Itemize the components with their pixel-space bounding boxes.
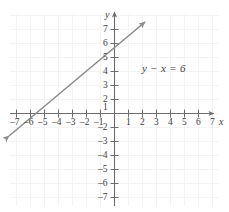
y-tick-label-neg5: –5: [98, 165, 108, 175]
y-tick-label-7: 7: [103, 25, 108, 35]
x-tick-label-neg5: –5: [38, 118, 48, 128]
y-axis-label: y: [105, 10, 109, 20]
y-tick-label-6: 6: [103, 39, 108, 49]
x-tick-label-4: 4: [168, 118, 173, 128]
equation-label: y − x = 6: [142, 62, 186, 74]
y-tick-label-3: 3: [103, 81, 108, 91]
y-tick-label-1: 1: [103, 103, 108, 113]
coordinate-plane: [0, 0, 229, 212]
x-tick-label-1: 1: [126, 118, 131, 128]
x-tick-label-neg4: –4: [52, 118, 62, 128]
y-tick-label-neg3: –3: [98, 137, 108, 147]
y-tick-label-5: 5: [103, 53, 108, 63]
x-tick-label-neg2: –2: [80, 118, 90, 128]
y-axis: [111, 12, 119, 206]
x-tick-label-2: 2: [140, 118, 145, 128]
x-tick-label-3: 3: [154, 118, 159, 128]
y-tick-label-neg4: –4: [98, 151, 108, 161]
x-tick-label-7: 7: [210, 118, 215, 128]
x-tick-label-neg3: –3: [66, 118, 76, 128]
y-tick-label-4: 4: [103, 67, 108, 77]
y-tick-label-neg6: –6: [98, 179, 108, 189]
x-tick-label-neg6: –6: [24, 118, 34, 128]
x-tick-label-neg7: –7: [10, 118, 20, 128]
graph-figure: –7 –6 –5 –4 –3 –2 –1 1 2 3 4 5 6 7 7 6 5…: [0, 0, 229, 212]
y-tick-label-neg2: –2: [98, 123, 108, 133]
y-tick-label-neg7: –7: [98, 193, 108, 203]
x-tick-label-5: 5: [182, 118, 187, 128]
x-axis-label: x: [219, 117, 223, 127]
x-tick-label-6: 6: [196, 118, 201, 128]
